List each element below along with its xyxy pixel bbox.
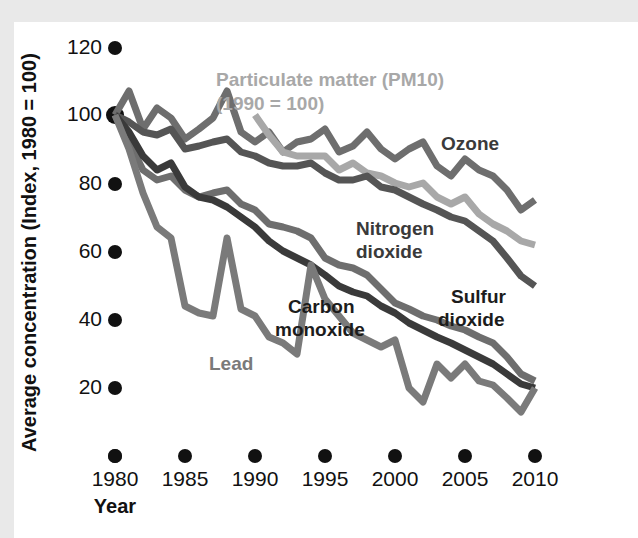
series-label-lead: Lead [209, 353, 253, 374]
y-tick-label: 20 [79, 375, 102, 398]
x-tick-dot [318, 449, 332, 463]
series-label-pm10-line1: Particulate matter (PM10) [216, 69, 444, 90]
y-tick-label: 40 [79, 307, 102, 330]
x-tick-label: 1980 [92, 467, 139, 490]
y-tick-label: 100 [67, 102, 102, 125]
y-tick-dot [108, 245, 122, 259]
y-tick-dot [108, 177, 122, 191]
y-tick-dot [108, 381, 122, 395]
x-tick-label: 2005 [442, 467, 489, 490]
x-tick-dot [178, 449, 192, 463]
y-axis-title: Average concentration (Index, 1980 = 100… [18, 53, 40, 452]
x-tick-dot [108, 449, 122, 463]
chart-page: Average concentration (Index, 1980 = 100… [0, 0, 638, 538]
x-tick-label: 1985 [162, 467, 209, 490]
line-chart: Average concentration (Index, 1980 = 100… [14, 22, 638, 538]
x-tick-dot [248, 449, 262, 463]
x-tick-label: 1995 [302, 467, 349, 490]
x-tick-label: 2000 [372, 467, 419, 490]
chart-panel: Average concentration (Index, 1980 = 100… [14, 22, 638, 538]
y-tick-dot [108, 41, 122, 55]
series-label-nitrogen-dioxide-line2: dioxide [356, 241, 423, 262]
series-label-sulfur-dioxide-line1: Sulfur [451, 286, 506, 307]
x-tick-dot [458, 449, 472, 463]
series-label-carbon-monoxide-line2: monoxide [275, 319, 365, 340]
x-tick-label: 2010 [512, 467, 559, 490]
y-tick-label: 120 [67, 35, 102, 58]
series-label-ozone: Ozone [441, 133, 499, 154]
y-tick-label: 80 [79, 171, 102, 194]
series-label-sulfur-dioxide-line2: dioxide [438, 309, 505, 330]
x-tick-dot [528, 449, 542, 463]
x-axis-ticks: 1980 1985 1990 1995 2000 2005 2010 [92, 449, 559, 490]
y-tick-dot [108, 313, 122, 327]
y-tick-label: 60 [79, 239, 102, 262]
y-axis-ticks: 120 100 80 60 40 20 [67, 35, 124, 463]
x-tick-dot [388, 449, 402, 463]
series-label-carbon-monoxide-line1: Carbon [288, 296, 355, 317]
x-tick-label: 1990 [232, 467, 279, 490]
x-axis-title: Year [94, 495, 136, 517]
series-label-nitrogen-dioxide-line1: Nitrogen [356, 218, 434, 239]
series-label-pm10-line2: (1990 = 100) [216, 93, 324, 114]
